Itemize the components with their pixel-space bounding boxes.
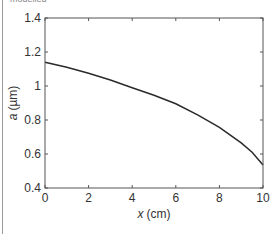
x-tick-label: 0 xyxy=(42,191,49,205)
y-tick-label: 0.4 xyxy=(24,181,41,195)
y-tick-label: 1.2 xyxy=(24,45,41,59)
line-chart: 0246810 0.40.60.811.21.4 x(cm) a(µm) xyxy=(0,0,279,234)
x-tick-labels: 0246810 xyxy=(42,191,270,205)
y-tick-label: 1 xyxy=(34,79,41,93)
x-axis-label: x(cm) xyxy=(137,207,171,221)
data-line xyxy=(45,62,263,165)
y-tick-label: 0.6 xyxy=(24,147,41,161)
y-axis-label: a(µm) xyxy=(6,86,20,121)
y-tick-labels: 0.40.60.811.21.4 xyxy=(24,11,41,195)
x-tick-label: 6 xyxy=(172,191,179,205)
y-tick-label: 0.8 xyxy=(24,113,41,127)
axis-ticks xyxy=(45,18,263,188)
x-tick-label: 8 xyxy=(216,191,223,205)
x-tick-label: 10 xyxy=(256,191,270,205)
plot-frame xyxy=(45,18,263,188)
x-tick-label: 2 xyxy=(85,191,92,205)
x-tick-label: 4 xyxy=(129,191,136,205)
y-tick-label: 1.4 xyxy=(24,11,41,25)
